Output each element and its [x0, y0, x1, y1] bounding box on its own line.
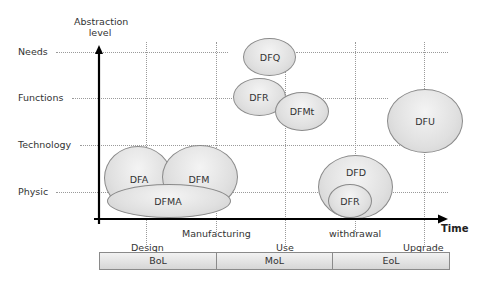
x-axis-title: Time — [441, 223, 468, 234]
phase-mol: MoL — [216, 252, 333, 270]
phase-eol: EoL — [332, 252, 450, 270]
stage-manufacturing: Manufacturing — [182, 228, 251, 239]
stage-withdrawal: withdrawal — [329, 228, 381, 239]
phase-bol: BoL — [99, 252, 217, 270]
x-axis — [94, 215, 448, 224]
y-axis — [95, 45, 103, 224]
